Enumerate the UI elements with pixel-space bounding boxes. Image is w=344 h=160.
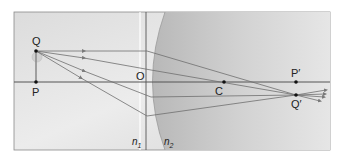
medium-2-region [153,12,331,150]
label-q: Q [32,36,41,47]
point-p [34,80,38,84]
label-o: O [136,71,145,82]
label-n2: n2 [164,137,173,149]
label-n1: n1 [132,137,141,149]
diagram-canvas [0,0,344,160]
label-q-prime: Q′ [291,99,302,110]
point-q-prime [294,93,298,97]
n2-subscript: 2 [170,142,174,149]
point-q [34,49,38,53]
point-c [222,80,226,84]
label-p-prime: P′ [291,68,300,79]
n1-subscript: 1 [138,142,142,149]
label-c: C [215,86,223,97]
label-p: P [32,87,39,98]
point-p-prime [294,80,298,84]
